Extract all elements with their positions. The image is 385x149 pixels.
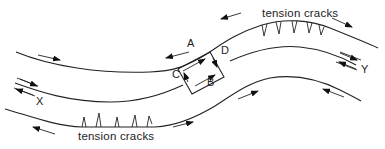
- tension-crack: [262, 24, 267, 36]
- arrow-right-icon: [238, 91, 258, 99]
- arrow-left-icon: [16, 89, 33, 95]
- label-y: Y: [361, 63, 369, 75]
- tension-crack: [307, 22, 312, 33]
- arrow-right-icon: [340, 53, 357, 60]
- upper-boundary-line: [16, 21, 378, 73]
- bottom-tension-cracks-label: tension cracks: [78, 130, 154, 142]
- label-b: B: [207, 76, 214, 88]
- tension-crack: [276, 22, 281, 34]
- arrow-left-icon: [221, 13, 241, 19]
- top-tension-cracks-label: tension cracks: [262, 7, 338, 19]
- tension-crack: [319, 25, 324, 35]
- tension-crack: [115, 117, 119, 127]
- arrow-left-icon: [33, 127, 55, 134]
- fault-trace: [14, 47, 361, 102]
- fault-diagram: tension cracks tension cracks A B C D X …: [0, 0, 385, 149]
- lower-boundary-line: [5, 77, 361, 127]
- tension-crack: [292, 21, 297, 33]
- tension-crack: [147, 116, 152, 127]
- shear-arrows: [16, 13, 357, 134]
- label-c: C: [172, 68, 180, 80]
- arrow-right-icon: [38, 55, 60, 60]
- label-x: X: [36, 95, 44, 107]
- label-a: A: [187, 37, 195, 49]
- tension-crack: [96, 113, 101, 127]
- arrow-right-icon: [20, 79, 37, 86]
- tension-crack: [82, 117, 86, 127]
- label-d: D: [221, 44, 229, 56]
- tension-crack: [132, 115, 137, 127]
- arrow-right-icon: [173, 122, 193, 127]
- arrow-right-icon: [332, 18, 352, 27]
